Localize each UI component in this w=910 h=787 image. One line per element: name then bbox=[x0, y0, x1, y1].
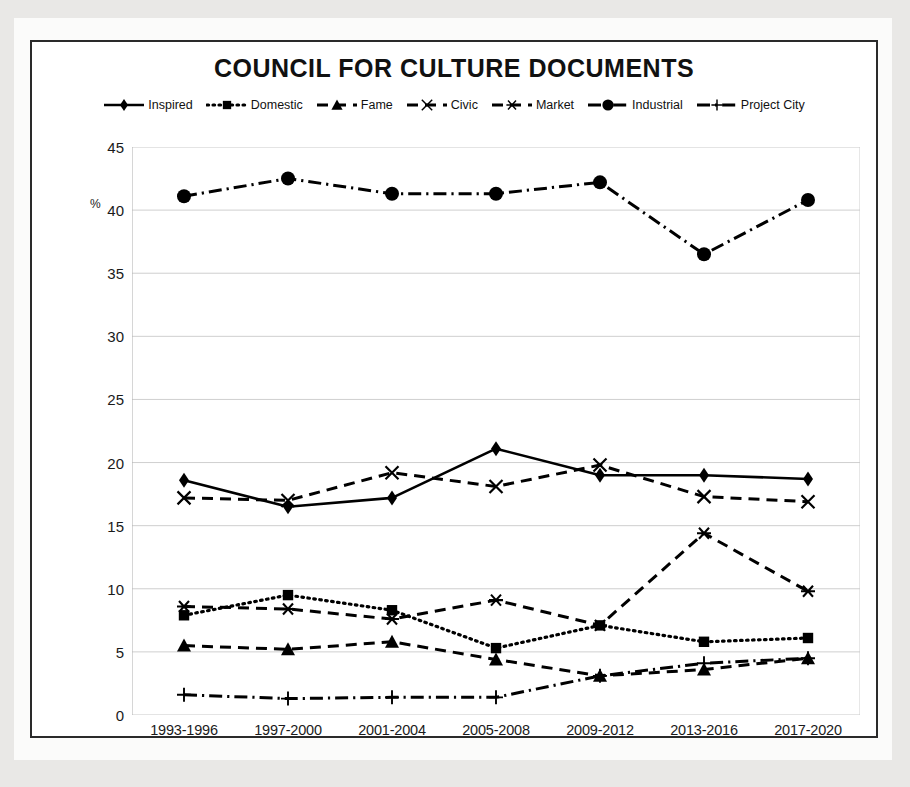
diamond-icon bbox=[491, 441, 501, 456]
y-axis-tick: 40 bbox=[78, 202, 124, 219]
data-point-diamond-marker bbox=[699, 468, 709, 483]
data-point-asterisk-marker bbox=[281, 603, 295, 614]
circle-icon bbox=[489, 187, 503, 201]
data-point-plus-marker bbox=[177, 688, 191, 702]
dashed-line-x-marker bbox=[406, 98, 448, 112]
dashed-line-asterisk-marker bbox=[491, 98, 533, 112]
plus-icon bbox=[385, 690, 399, 704]
circle-icon bbox=[602, 99, 613, 110]
y-axis-tick: 30 bbox=[78, 328, 124, 345]
diamond-icon bbox=[120, 99, 128, 111]
x-axis-tick: 1993-1996 bbox=[132, 722, 236, 752]
scan-edge-top bbox=[0, 0, 910, 18]
legend-item-domestic[interactable]: Domestic bbox=[206, 98, 303, 112]
series-line bbox=[184, 533, 808, 625]
asterisk-icon bbox=[489, 595, 503, 606]
x-axis-tick: 2001-2004 bbox=[340, 722, 444, 752]
y-axis-tick: 45 bbox=[78, 139, 124, 156]
y-axis-tick: 20 bbox=[78, 454, 124, 471]
x-axis-tick: 2005-2008 bbox=[444, 722, 548, 752]
diamond-icon bbox=[803, 471, 813, 486]
legend-label: Inspired bbox=[148, 98, 192, 112]
dashed-line-triangle-marker bbox=[316, 98, 358, 112]
series-market bbox=[177, 528, 815, 631]
plus-icon bbox=[489, 690, 503, 704]
square-icon bbox=[699, 637, 709, 647]
asterisk-icon bbox=[281, 603, 295, 614]
data-point-asterisk-marker bbox=[489, 595, 503, 606]
legend-label: Domestic bbox=[251, 98, 303, 112]
data-point-square-marker bbox=[491, 643, 501, 653]
square-icon bbox=[803, 633, 813, 643]
legend-item-project-city[interactable]: Project City bbox=[696, 98, 805, 112]
circle-icon bbox=[593, 175, 607, 189]
series-industrial bbox=[177, 172, 815, 262]
series-line bbox=[184, 595, 808, 648]
data-point-asterisk-marker bbox=[697, 528, 711, 539]
asterisk-icon bbox=[506, 101, 517, 110]
data-point-circle-marker bbox=[593, 175, 607, 189]
series-line bbox=[184, 465, 808, 502]
data-point-diamond-marker bbox=[120, 99, 128, 111]
circle-icon bbox=[281, 172, 295, 186]
diamond-icon bbox=[387, 490, 397, 505]
y-axis-tick: 5 bbox=[78, 643, 124, 660]
legend-label: Fame bbox=[361, 98, 393, 112]
circle-icon bbox=[801, 193, 815, 207]
dashdot-line-circle-marker bbox=[587, 98, 629, 112]
data-point-plus-marker bbox=[281, 692, 295, 706]
dashdot-line-plus-marker bbox=[696, 98, 738, 112]
diamond-icon bbox=[179, 473, 189, 488]
legend-item-industrial[interactable]: Industrial bbox=[587, 98, 683, 112]
data-point-plus-marker bbox=[711, 99, 722, 110]
data-point-circle-marker bbox=[602, 99, 613, 110]
circle-icon bbox=[697, 247, 711, 261]
legend-label: Project City bbox=[741, 98, 805, 112]
y-axis-tick: 25 bbox=[78, 391, 124, 408]
series-civic bbox=[178, 459, 815, 509]
y-axis-tick-labels: 454035302520151050 bbox=[62, 147, 124, 715]
dotted-line-square-marker bbox=[206, 98, 248, 112]
square-icon bbox=[223, 101, 231, 109]
scan-edge-left bbox=[0, 0, 14, 787]
x-axis-tick-labels: 1993-19961997-20002001-20042005-20082009… bbox=[132, 722, 860, 752]
data-point-asterisk-marker bbox=[506, 101, 517, 110]
solid-line-diamond-marker bbox=[103, 98, 145, 112]
line-chart-svg bbox=[132, 147, 860, 715]
data-point-diamond-marker bbox=[491, 441, 501, 456]
legend-label: Civic bbox=[451, 98, 478, 112]
chart-title: COUNCIL FOR CULTURE DOCUMENTS bbox=[32, 54, 876, 83]
scan-edge-bottom bbox=[0, 760, 910, 787]
data-point-square-marker bbox=[283, 590, 293, 600]
data-point-diamond-marker bbox=[803, 471, 813, 486]
legend-item-inspired[interactable]: Inspired bbox=[103, 98, 192, 112]
gridlines bbox=[132, 147, 860, 715]
chart-frame: COUNCIL FOR CULTURE DOCUMENTS InspiredDo… bbox=[30, 40, 878, 738]
data-point-diamond-marker bbox=[387, 490, 397, 505]
y-axis-tick: 15 bbox=[78, 517, 124, 534]
legend-item-civic[interactable]: Civic bbox=[406, 98, 478, 112]
series-inspired bbox=[179, 441, 813, 514]
data-point-circle-marker bbox=[177, 189, 191, 203]
circle-icon bbox=[177, 189, 191, 203]
square-icon bbox=[283, 590, 293, 600]
legend-item-market[interactable]: Market bbox=[491, 98, 574, 112]
square-icon bbox=[491, 643, 501, 653]
asterisk-icon bbox=[697, 528, 711, 539]
scan-edge-right bbox=[892, 0, 910, 787]
plus-icon bbox=[711, 99, 722, 110]
data-point-circle-marker bbox=[385, 187, 399, 201]
legend-label: Market bbox=[536, 98, 574, 112]
x-axis-tick: 2009-2012 bbox=[548, 722, 652, 752]
x-axis-tick: 1997-2000 bbox=[236, 722, 340, 752]
legend-item-fame[interactable]: Fame bbox=[316, 98, 393, 112]
data-point-circle-marker bbox=[489, 187, 503, 201]
y-axis-tick: 10 bbox=[78, 580, 124, 597]
data-point-circle-marker bbox=[697, 247, 711, 261]
chart-page: COUNCIL FOR CULTURE DOCUMENTS InspiredDo… bbox=[0, 0, 910, 787]
data-point-circle-marker bbox=[281, 172, 295, 186]
data-point-square-marker bbox=[223, 101, 231, 109]
plot-area bbox=[132, 147, 860, 715]
y-axis-tick: 35 bbox=[78, 265, 124, 282]
plus-icon bbox=[281, 692, 295, 706]
